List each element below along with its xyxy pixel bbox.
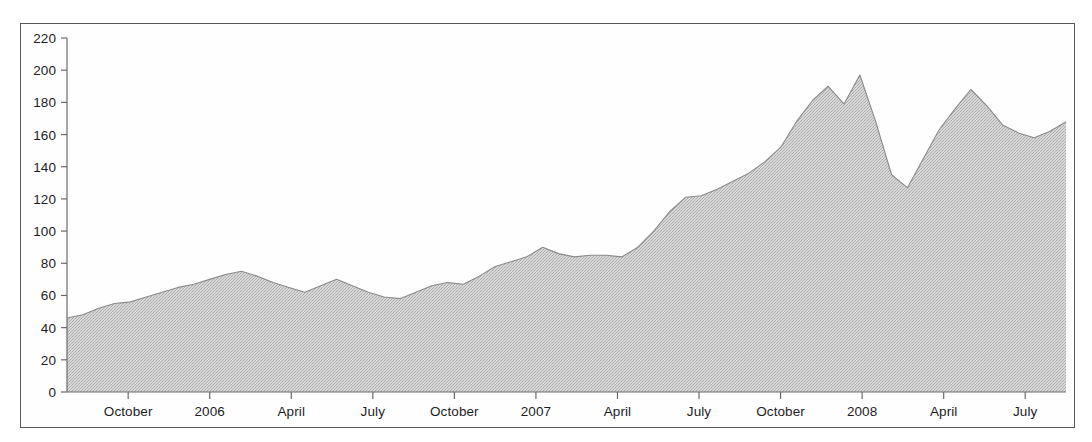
x-axis-tick-label: October (104, 404, 153, 419)
y-axis-tick-label: 40 (0, 320, 56, 335)
y-axis-tick-label: 100 (0, 224, 56, 239)
y-axis-tick-label: 60 (0, 288, 56, 303)
x-axis-tick-label: July (361, 404, 385, 419)
x-axis-tick-label: 2008 (847, 404, 877, 419)
x-axis-tick-label: April (604, 404, 632, 419)
x-axis-tick-label: April (277, 404, 305, 419)
y-axis-tick-label: 160 (0, 127, 56, 142)
y-axis-tick-label: 120 (0, 191, 56, 206)
y-axis-tick-label: 220 (0, 31, 56, 46)
chart-frame (20, 23, 1075, 428)
y-axis-tick-label: 140 (0, 159, 56, 174)
y-axis-tick-label: 80 (0, 256, 56, 271)
x-axis-tick-label: 2006 (194, 404, 224, 419)
x-axis-tick-label: 2007 (521, 404, 551, 419)
area-chart-figure: 020406080100120140160180200220 October20… (0, 0, 1092, 442)
y-axis-tick-label: 200 (0, 63, 56, 78)
y-axis-tick-label: 0 (0, 385, 56, 400)
x-axis-tick-label: July (1013, 404, 1037, 419)
y-axis-tick-label: 20 (0, 352, 56, 367)
x-axis-tick-label: July (687, 404, 711, 419)
x-axis-tick-label: October (430, 404, 479, 419)
y-axis-tick-label: 180 (0, 95, 56, 110)
x-axis-tick-label: April (930, 404, 958, 419)
x-axis-tick-label: October (756, 404, 805, 419)
